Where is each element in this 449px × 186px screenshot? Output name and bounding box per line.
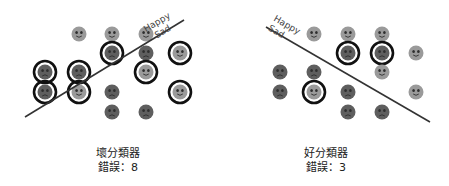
bad-classifier-errors: 錯誤：8 — [58, 161, 178, 175]
good-classifier-caption: 好分類器 錯誤：3 — [266, 147, 386, 175]
bad-classifier-title: 壞分類器 — [58, 147, 178, 161]
sad-face-icon — [371, 42, 393, 64]
happy-face-icon — [409, 46, 424, 61]
happy-face-icon — [72, 27, 87, 42]
sad-face-icon — [341, 85, 356, 100]
sad-face-icon — [105, 85, 120, 100]
sad-face-icon — [105, 105, 120, 120]
sad-face-icon — [101, 42, 123, 64]
happy-face-icon — [341, 27, 356, 42]
happy-face-icon — [303, 81, 325, 103]
sad-face-icon — [273, 85, 288, 100]
happy-face-icon — [169, 42, 191, 64]
bad-classifier-caption: 壞分類器 錯誤：8 — [58, 147, 178, 175]
good-classifier-title: 好分類器 — [266, 147, 386, 161]
happy-face-icon — [307, 27, 322, 42]
sad-face-icon — [34, 61, 56, 83]
happy-face-icon — [135, 61, 157, 83]
boundary-labels: HappySad — [267, 13, 303, 46]
sad-face-icon — [273, 65, 288, 80]
sad-face-icon — [139, 105, 154, 120]
happy-face-icon — [409, 85, 424, 100]
sad-face-icon — [375, 105, 390, 120]
sad-face-icon — [337, 42, 359, 64]
bad-classifier-panel: HappySad — [25, 10, 191, 119]
happy-face-icon — [105, 27, 120, 42]
good-classifier-errors: 錯誤：3 — [266, 161, 386, 175]
happy-face-icon — [375, 27, 390, 42]
good-classifier-panel: HappySad — [266, 13, 430, 122]
happy-face-icon — [169, 81, 191, 103]
sad-face-icon — [307, 65, 322, 80]
happy-face-icon — [375, 65, 390, 80]
sad-face-icon — [139, 46, 154, 61]
sad-face-icon — [341, 105, 356, 120]
